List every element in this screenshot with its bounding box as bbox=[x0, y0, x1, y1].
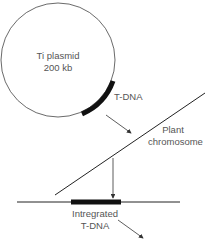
integrated-label-2: T-DNA bbox=[70, 220, 120, 231]
integrated-label-1: Intregrated bbox=[70, 208, 120, 219]
integrated-tdna-block bbox=[71, 200, 121, 205]
expression-arrow bbox=[118, 220, 143, 238]
tdna-label: T-DNA bbox=[114, 91, 143, 102]
chromosome-label-1: Plant bbox=[148, 124, 198, 135]
plasmid-size-label: 200 kb bbox=[28, 62, 88, 73]
chromosome-label-2: chromosome bbox=[148, 136, 198, 147]
tdna-segment bbox=[82, 81, 113, 114]
plasmid-name-label: Ti plasmid bbox=[28, 50, 88, 61]
transfer-arrow bbox=[106, 115, 131, 133]
